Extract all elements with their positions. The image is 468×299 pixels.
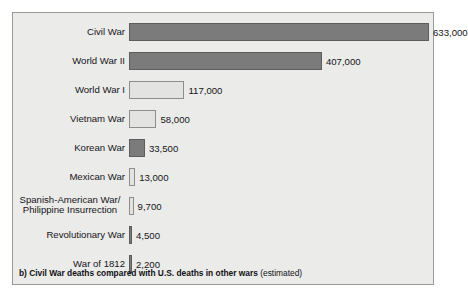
bar-row: World War I117,000 <box>13 75 433 104</box>
bar-value-label: 9,700 <box>138 200 162 211</box>
bar-chart: Civil War633,000World War II407,000World… <box>13 13 433 259</box>
bar <box>129 23 429 41</box>
bar-row: Mexican War13,000 <box>13 162 433 191</box>
bar-track: 13,000 <box>129 162 431 191</box>
bar-row: World War II407,000 <box>13 46 433 75</box>
bar-category-label: Revolutionary War <box>13 229 125 240</box>
bar-row: Vietnam War58,000 <box>13 104 433 133</box>
bar-value-label: 13,000 <box>139 171 168 182</box>
bar-category-label: Civil War <box>13 26 125 37</box>
bar <box>129 139 145 157</box>
bar-track: 4,500 <box>129 220 431 249</box>
bar-row: Revolutionary War4,500 <box>13 220 433 249</box>
bar-track: 33,500 <box>129 133 431 162</box>
bar-category-label: Vietnam War <box>13 113 125 124</box>
bar-row: Spanish-American War/ Philippine Insurre… <box>13 191 433 220</box>
bar-track: 407,000 <box>129 46 431 75</box>
bar-row: Korean War33,500 <box>13 133 433 162</box>
bar <box>129 226 132 244</box>
bar-category-label: Mexican War <box>13 171 125 182</box>
bar-value-label: 58,000 <box>160 113 189 124</box>
bar-track: 58,000 <box>129 104 431 133</box>
figure-caption: b) Civil War deaths compared with U.S. d… <box>19 268 302 278</box>
bar-track: 633,000 <box>129 17 431 46</box>
bar <box>129 52 322 70</box>
caption-main-text: b) Civil War deaths compared with U.S. d… <box>19 268 258 278</box>
bar-value-label: 633,000 <box>433 26 468 37</box>
bar <box>129 197 134 215</box>
bar <box>129 168 135 186</box>
bar-track: 9,700 <box>129 191 431 220</box>
bar <box>129 110 156 128</box>
bar-category-label: World War I <box>13 84 125 95</box>
bar-category-label: Spanish-American War/ Philippine Insurre… <box>13 195 127 216</box>
bar-value-label: 4,500 <box>136 229 160 240</box>
bar-category-label: World War II <box>13 55 125 66</box>
bar-category-label: Korean War <box>13 142 125 153</box>
bar-value-label: 33,500 <box>149 142 178 153</box>
figure-panel: Civil War633,000World War II407,000World… <box>12 12 434 285</box>
bar-value-label: 407,000 <box>326 55 361 66</box>
bar <box>129 81 184 99</box>
caption-note-text: (estimated) <box>260 268 302 278</box>
bar-row: Civil War633,000 <box>13 17 433 46</box>
bar-track: 117,000 <box>129 75 431 104</box>
bar-value-label: 117,000 <box>188 84 222 95</box>
